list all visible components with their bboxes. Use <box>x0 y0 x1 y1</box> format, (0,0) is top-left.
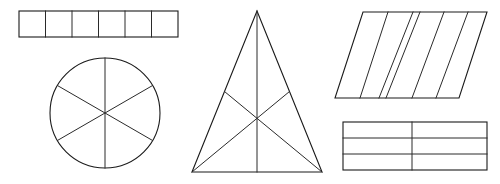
figure-rectangle-strip <box>19 11 178 37</box>
triangle-median-from-right-base <box>225 92 323 173</box>
figure-triangle-medians <box>192 11 322 172</box>
triangle-median-from-left-base <box>192 92 290 173</box>
parallelogram-divider-3 <box>386 12 420 98</box>
figure-parallelogram-strips <box>335 12 487 98</box>
parallelogram-divider-4 <box>412 12 444 98</box>
geometry-illustration <box>0 0 500 184</box>
figures-canvas <box>0 0 500 184</box>
figure-rectangle-grid <box>343 122 487 170</box>
parallelogram-outline <box>335 12 487 98</box>
figure-circle-sectors <box>50 58 160 168</box>
rectangle-grid-outline <box>343 122 487 170</box>
